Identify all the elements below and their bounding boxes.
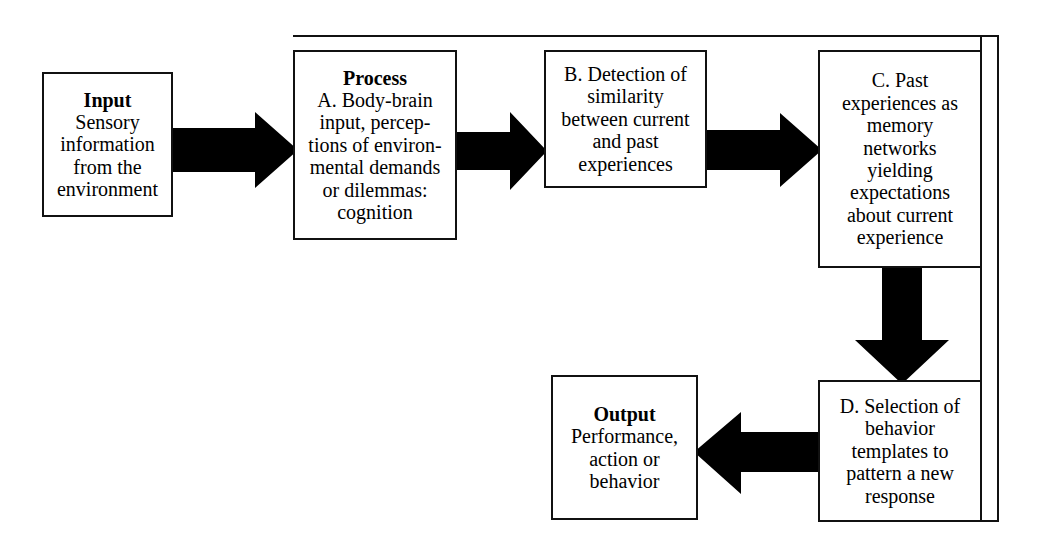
box-detection: B. Detection of similarity between curre… (544, 50, 707, 188)
box-memory-body: C. Past experiences as memory networks y… (842, 69, 958, 248)
frame-bottom-rule (980, 520, 999, 522)
arrow-input-to-process-icon (163, 110, 298, 190)
box-input-body: Sensory information from the environment (57, 111, 158, 201)
frame-right-outer-rule (997, 35, 999, 522)
flowchart-canvas: Input Sensory information from the envir… (0, 0, 1045, 553)
box-process-header: Process (343, 67, 407, 89)
box-process: Process A. Body-brain input, percep- tio… (293, 50, 457, 240)
box-input: Input Sensory information from the envir… (42, 72, 173, 217)
arrow-detection-to-memory-icon (704, 110, 822, 192)
box-process-body: A. Body-brain input, percep- tions of en… (308, 89, 441, 223)
arrow-memory-to-selection-icon (855, 266, 949, 384)
box-selection: D. Selection of behavior templates to pa… (818, 380, 982, 522)
box-memory: C. Past experiences as memory networks y… (818, 50, 982, 268)
arrow-process-to-detection-icon (452, 110, 547, 192)
box-output: Output Performance, action or behavior (551, 375, 698, 520)
frame-top-rule (293, 35, 999, 37)
box-output-body: Performance, action or behavior (571, 425, 678, 492)
box-input-header: Input (84, 89, 132, 111)
arrow-selection-to-output-icon (694, 410, 822, 496)
box-output-header: Output (593, 403, 655, 425)
box-detection-body: B. Detection of similarity between curre… (561, 63, 689, 175)
box-selection-body: D. Selection of behavior templates to pa… (840, 395, 961, 507)
